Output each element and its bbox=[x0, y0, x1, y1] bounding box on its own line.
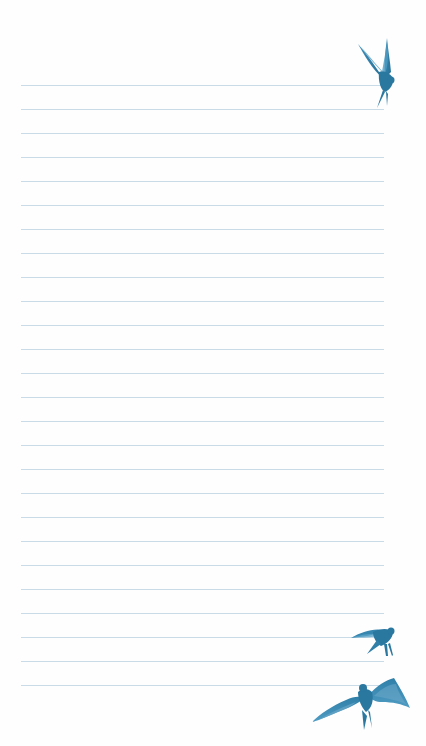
ruled-line bbox=[21, 133, 384, 134]
ruled-line bbox=[21, 517, 384, 518]
ruled-line bbox=[21, 85, 384, 86]
ruled-line bbox=[21, 253, 384, 254]
ruled-line bbox=[21, 661, 384, 662]
ruled-line bbox=[21, 565, 384, 566]
ruled-line bbox=[21, 157, 384, 158]
ruled-line bbox=[21, 445, 384, 446]
ruled-line bbox=[21, 493, 384, 494]
ruled-line bbox=[21, 541, 384, 542]
ruled-line bbox=[21, 205, 384, 206]
ruled-line bbox=[21, 373, 384, 374]
ruled-line bbox=[21, 301, 384, 302]
swallow-perched-icon bbox=[357, 38, 395, 108]
ruled-line bbox=[21, 397, 384, 398]
ruled-line bbox=[21, 325, 384, 326]
ruled-line bbox=[21, 349, 384, 350]
ruled-line bbox=[21, 421, 384, 422]
notepaper-page bbox=[0, 0, 426, 746]
ruled-line bbox=[21, 637, 384, 638]
ruled-line bbox=[21, 229, 384, 230]
swallow-small-flying-icon bbox=[351, 626, 396, 658]
ruled-line bbox=[21, 613, 384, 614]
ruled-line bbox=[21, 181, 384, 182]
ruled-line bbox=[21, 277, 384, 278]
ruled-line bbox=[21, 469, 384, 470]
ruled-line bbox=[21, 109, 384, 110]
ruled-line bbox=[21, 589, 384, 590]
swallow-large-flying-icon bbox=[312, 678, 412, 730]
